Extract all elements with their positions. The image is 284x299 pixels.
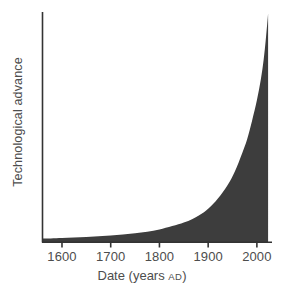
- x-axis-tick-label: 1600: [47, 249, 76, 264]
- x-axis-label-main: Date (years: [98, 268, 165, 283]
- x-axis-label-era: AD: [168, 271, 182, 282]
- chart-figure: Technological advance 160017001800190020…: [0, 0, 284, 299]
- x-axis-tick-label: 2000: [242, 249, 271, 264]
- x-axis-tick-label: 1700: [96, 249, 125, 264]
- x-axis-tick-label: 1800: [145, 249, 174, 264]
- technological-advance-area: [43, 14, 269, 243]
- x-axis-label: Date (years AD): [0, 268, 284, 283]
- x-axis-label-close: ): [182, 268, 186, 283]
- x-axis-tick-label: 1900: [193, 249, 222, 264]
